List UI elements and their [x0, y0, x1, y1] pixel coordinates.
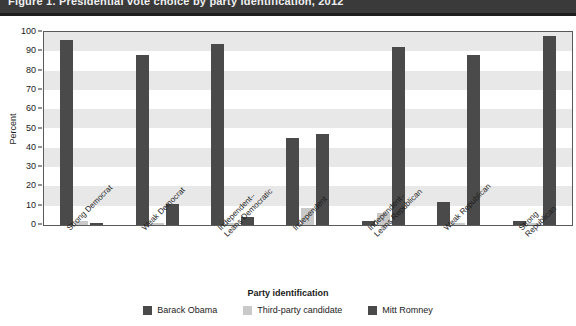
y-tick-mark [38, 69, 42, 70]
y-tick-mark [38, 224, 42, 225]
plot-area [43, 31, 573, 226]
legend-swatch [143, 306, 152, 315]
x-axis-title: Party identification [0, 288, 576, 298]
bar-group [119, 32, 194, 225]
y-tick-mark [38, 127, 42, 128]
legend-label: Mitt Romney [382, 305, 433, 315]
y-tick-label: 0 [10, 219, 36, 229]
bar-obama [211, 44, 224, 225]
bar-obama [286, 138, 299, 225]
y-tick-label: 40 [10, 142, 36, 152]
bar-chart: Percent 1009080706050403020100 Strong De… [0, 16, 576, 326]
legend-swatch [243, 306, 252, 315]
legend-swatch [368, 306, 377, 315]
bar-obama [136, 55, 149, 225]
y-tick-label: 30 [10, 161, 36, 171]
y-tick-label: 50 [10, 123, 36, 133]
legend-item: Mitt Romney [368, 305, 433, 315]
y-tick-label: 10 [10, 200, 36, 210]
y-tick-label: 80 [10, 65, 36, 75]
legend-label: Third-party candidate [257, 305, 342, 315]
y-tick-mark [38, 146, 42, 147]
bar-romney [90, 223, 103, 225]
legend-item: Third-party candidate [243, 305, 342, 315]
y-axis-ticks: 1009080706050403020100 [8, 16, 36, 246]
y-tick-label: 20 [10, 180, 36, 190]
y-tick-mark [38, 88, 42, 89]
legend-item: Barack Obama [143, 305, 217, 315]
bar-group [421, 32, 496, 225]
figure-title: Figure 1. Presidential vote choice by pa… [8, 0, 344, 7]
y-tick-mark [38, 31, 42, 32]
bar-obama [60, 40, 73, 225]
y-tick-mark [38, 204, 42, 205]
legend-label: Barack Obama [157, 305, 217, 315]
y-tick-label: 70 [10, 84, 36, 94]
x-axis-tick-labels: Strong DemocratWeak DemocratIndependent–… [43, 226, 571, 288]
chart-legend: Barack ObamaThird-party candidateMitt Ro… [0, 305, 576, 315]
y-tick-label: 90 [10, 45, 36, 55]
bar-group [270, 32, 345, 225]
y-tick-mark [38, 185, 42, 186]
y-tick-mark [38, 166, 42, 167]
y-tick-label: 100 [10, 26, 36, 36]
y-tick-mark [38, 50, 42, 51]
bar-romney [316, 134, 329, 225]
y-tick-label: 60 [10, 103, 36, 113]
y-tick-mark [38, 108, 42, 109]
figure-title-banner: Figure 1. Presidential vote choice by pa… [0, 0, 576, 13]
bar-group [44, 32, 119, 225]
bar-groups [44, 32, 572, 225]
